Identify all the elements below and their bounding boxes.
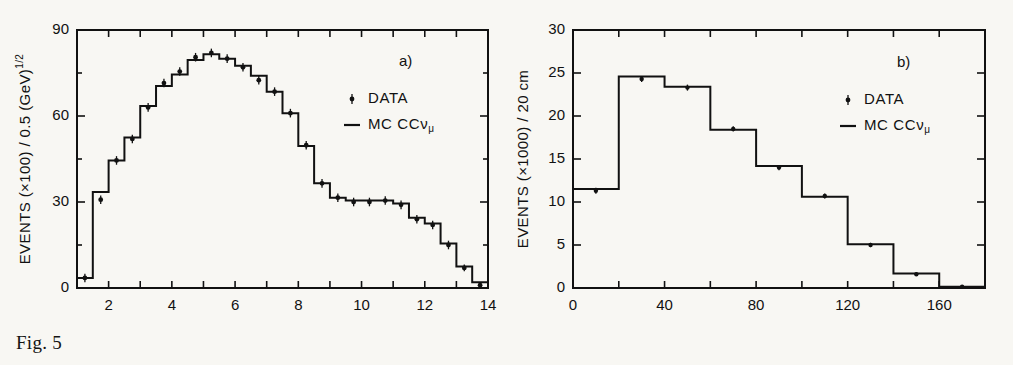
data-point	[288, 111, 293, 116]
y-tick-label: 0	[61, 278, 69, 295]
data-point	[446, 243, 451, 248]
x-tick-label: 8	[294, 296, 302, 313]
x-tick-label: 6	[231, 296, 239, 313]
chart-a-canvas: 24681012140306090a)DATAMC CCνμ√E (GeV)1/…	[0, 0, 506, 320]
data-point	[209, 51, 214, 56]
x-tick-label: 4	[168, 296, 176, 313]
y-tick-label: 60	[52, 106, 69, 123]
data-point	[114, 158, 119, 163]
panel-tag: b)	[897, 53, 910, 70]
data-point	[83, 276, 88, 281]
data-point	[823, 194, 827, 198]
figure-root: 24681012140306090a)DATAMC CCνμ√E (GeV)1/…	[0, 0, 1013, 365]
y-tick-label: 30	[548, 20, 565, 37]
legend-label: MC CCνμ	[368, 115, 435, 134]
data-point	[868, 243, 872, 247]
data-point	[304, 143, 309, 148]
data-point	[414, 217, 419, 222]
x-tick-label: 14	[480, 296, 497, 313]
x-tick-label: 40	[656, 296, 673, 313]
y-tick-label: 30	[52, 192, 69, 209]
y-axis-title: EVENTS (×1000) / 20 cm	[514, 70, 531, 248]
figure-caption: Fig. 5	[16, 332, 62, 354]
x-tick-label: 2	[104, 296, 112, 313]
data-point	[478, 283, 483, 288]
y-axis-title-text: EVENTS (×1000) / 20 cm	[514, 70, 531, 248]
data-point	[430, 223, 435, 228]
legend-marker-point	[846, 98, 851, 103]
data-point	[777, 165, 781, 169]
data-point	[162, 81, 167, 86]
y-axis-title-text: EVENTS (×100) / 0.5 (GeV)	[16, 69, 33, 265]
data-point	[98, 197, 103, 202]
x-tick-label: 12	[416, 296, 433, 313]
y-axis-title-superscript: 1/2	[14, 54, 25, 69]
data-point	[241, 65, 246, 70]
data-point	[367, 200, 372, 205]
legend-label: DATA	[864, 90, 904, 107]
data-point	[225, 56, 230, 61]
chart-panel-b: 04080120160051015202530b)DATAMC CCνμr (c…	[500, 0, 1006, 320]
data-point	[462, 266, 467, 271]
data-point	[639, 77, 643, 81]
x-tick-label: 0	[569, 296, 577, 313]
y-tick-label: 90	[52, 20, 69, 37]
data-point	[320, 181, 325, 186]
y-axis-title: EVENTS (×100) / 0.5 (GeV)1/2	[14, 54, 33, 265]
y-tick-label: 10	[548, 192, 565, 209]
data-point	[399, 202, 404, 207]
chart-b-canvas: 04080120160051015202530b)DATAMC CCνμr (c…	[500, 0, 1006, 320]
legend-label: DATA	[368, 89, 408, 106]
data-point	[256, 78, 261, 83]
y-tick-label: 20	[548, 106, 565, 123]
y-tick-label: 0	[557, 278, 565, 295]
data-point	[146, 105, 151, 110]
legend-label: MC CCνμ	[864, 116, 931, 135]
legend-marker-point	[350, 97, 355, 102]
mc-histogram-line	[573, 76, 985, 288]
panel-tag: a)	[399, 52, 412, 69]
legend-label-subscript: μ	[428, 123, 434, 134]
legend-label-subscript: μ	[924, 124, 930, 135]
data-point	[960, 285, 964, 289]
data-point	[272, 89, 277, 94]
data-point	[685, 85, 689, 89]
x-tick-label: 80	[748, 296, 765, 313]
plot-frame	[573, 30, 985, 288]
x-tick-label: 10	[353, 296, 370, 313]
mc-histogram-line	[77, 54, 488, 288]
data-point	[177, 69, 182, 74]
y-tick-label: 5	[557, 235, 565, 252]
data-point	[383, 198, 388, 203]
x-tick-label: 120	[835, 296, 860, 313]
data-point	[594, 189, 598, 193]
data-point	[193, 55, 198, 60]
data-point	[731, 127, 735, 131]
data-point	[335, 195, 340, 200]
x-tick-label: 160	[927, 296, 952, 313]
y-tick-label: 15	[548, 149, 565, 166]
data-point	[351, 200, 356, 205]
plot-frame	[77, 30, 488, 288]
data-point	[914, 272, 918, 276]
y-tick-label: 25	[548, 63, 565, 80]
data-point	[130, 137, 135, 142]
chart-panel-a: 24681012140306090a)DATAMC CCνμ√E (GeV)1/…	[0, 0, 506, 320]
